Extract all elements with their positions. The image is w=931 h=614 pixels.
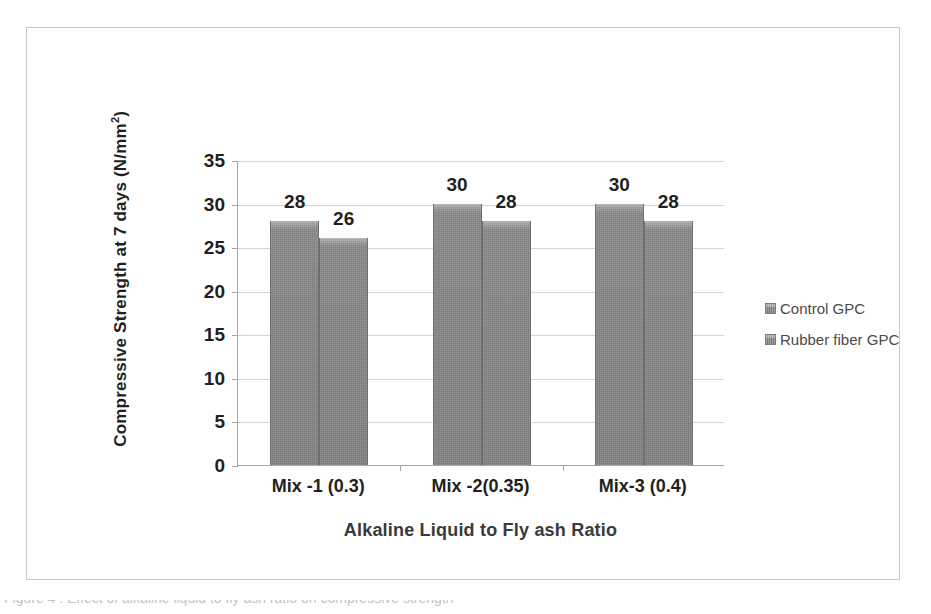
bar-group: 3028 xyxy=(595,161,693,465)
x-axis-category-labels: Mix -1 (0.3)Mix -2(0.35)Mix-3 (0.4) xyxy=(237,476,724,506)
bar-value-label: 28 xyxy=(658,191,679,213)
y-axis-tick-label: 20 xyxy=(175,281,225,303)
x-axis-category-label: Mix -1 (0.3) xyxy=(237,476,399,497)
y-axis-tickmark xyxy=(232,335,238,336)
y-axis-tick-label: 10 xyxy=(175,368,225,390)
bar[interactable] xyxy=(319,238,368,465)
figure-caption: Figure 4 : Effect of alkaline liquid to … xyxy=(4,600,454,606)
y-axis-tick-label: 30 xyxy=(175,194,225,216)
y-axis-tickmark xyxy=(232,466,238,467)
y-axis-tick-label: 15 xyxy=(175,324,225,346)
bar[interactable] xyxy=(433,204,482,465)
y-axis-tickmark xyxy=(232,248,238,249)
legend-swatch-icon xyxy=(765,334,776,345)
bar-group: 3028 xyxy=(433,161,531,465)
bar-value-label: 26 xyxy=(333,208,354,230)
bar[interactable] xyxy=(482,221,531,465)
y-axis-tick-labels: 05101520253035 xyxy=(175,126,225,446)
bar-value-label: 30 xyxy=(446,174,467,196)
bar-value-label: 28 xyxy=(495,191,516,213)
x-axis-title: Alkaline Liquid to Fly ash Ratio xyxy=(237,520,724,541)
bar[interactable] xyxy=(595,204,644,465)
y-axis-tickmark xyxy=(232,205,238,206)
y-axis-tickmark xyxy=(232,422,238,423)
y-axis-title-superscript: 2 xyxy=(109,117,121,123)
y-axis-tickmark xyxy=(232,161,238,162)
y-axis-title-text: Compressive Strength at 7 days (N/mm xyxy=(111,123,130,447)
bar[interactable] xyxy=(270,221,319,465)
legend-swatch-icon xyxy=(765,303,776,314)
y-axis-tick-label: 25 xyxy=(175,237,225,259)
plot-area: 282630283028 xyxy=(237,161,724,466)
chart-legend: Control GPCRubber fiber GPC xyxy=(765,300,915,362)
legend-label: Rubber fiber GPC xyxy=(780,331,899,348)
legend-label: Control GPC xyxy=(780,300,865,317)
bar-value-label: 30 xyxy=(609,174,630,196)
category-divider xyxy=(563,465,564,471)
bar-value-label: 28 xyxy=(284,191,305,213)
legend-item[interactable]: Control GPC xyxy=(765,300,915,317)
bar[interactable] xyxy=(644,221,693,465)
y-axis-tickmark xyxy=(232,379,238,380)
bar-group: 2826 xyxy=(270,161,368,465)
legend-item[interactable]: Rubber fiber GPC xyxy=(765,331,915,348)
y-axis-tick-label: 5 xyxy=(175,411,225,433)
figure-caption-strip: Figure 4 : Effect of alkaline liquid to … xyxy=(0,600,931,614)
figure-frame: Compressive Strength at 7 days (N/mm2) 0… xyxy=(26,27,900,580)
y-axis-tick-label: 0 xyxy=(175,455,225,477)
y-axis-title: Compressive Strength at 7 days (N/mm2) xyxy=(109,99,131,459)
category-divider xyxy=(400,465,401,471)
y-axis-tickmark xyxy=(232,292,238,293)
x-axis-category-label: Mix-3 (0.4) xyxy=(562,476,724,497)
y-axis-title-suffix: ) xyxy=(111,111,130,117)
x-axis-category-label: Mix -2(0.35) xyxy=(399,476,561,497)
chart-area: Compressive Strength at 7 days (N/mm2) 0… xyxy=(27,28,901,581)
y-axis-tick-label: 35 xyxy=(175,150,225,172)
